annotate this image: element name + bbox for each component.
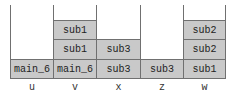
- stack-frame: sub3: [97, 39, 140, 59]
- stack-frame: main_6: [11, 59, 53, 78]
- baseline: [10, 78, 226, 79]
- column-label-w: w: [184, 82, 225, 93]
- stack-frame: sub3: [141, 59, 183, 78]
- column-label-z: z: [141, 82, 183, 93]
- column-label-x: x: [97, 82, 140, 93]
- stack-frame: sub2: [184, 39, 225, 59]
- stack-frame: sub1: [54, 39, 96, 59]
- column-label-u: u: [11, 82, 53, 93]
- stack-frame: main_6: [54, 59, 96, 78]
- stack-frame: sub3: [97, 59, 140, 78]
- call-stack-diagram: main_6 main_6 sub1 sub1 sub3 sub3 sub3 s…: [0, 0, 236, 98]
- stack-frame: sub1: [54, 20, 96, 39]
- column-label-v: v: [54, 82, 96, 93]
- column-divider: [225, 5, 226, 79]
- stack-frame: sub2: [184, 20, 225, 39]
- stack-frame: sub1: [184, 59, 225, 78]
